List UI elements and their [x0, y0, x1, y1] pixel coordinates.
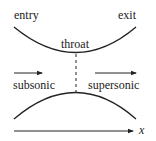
supersonic-label: supersonic [88, 79, 139, 91]
lower-wall-curve [14, 93, 136, 120]
subsonic-label: subsonic [13, 79, 55, 91]
nozzle-diagram: entry exit throat subsonic supersonic x [0, 0, 156, 141]
x-axis-label: x [139, 124, 144, 136]
exit-label: exit [118, 9, 136, 21]
entry-label: entry [14, 9, 39, 21]
throat-label: throat [61, 38, 89, 50]
